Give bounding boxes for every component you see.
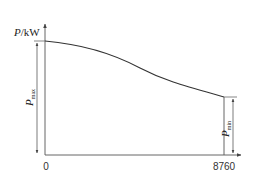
y-axis-title-unit: /kW <box>21 26 41 38</box>
pmax-label-subscript: max <box>30 89 36 99</box>
y-axis-title: P/kW <box>13 26 40 38</box>
pmax-label: Pmax <box>23 89 36 107</box>
x-tick-8760: 8760 <box>213 161 236 172</box>
x-tick-0: 0 <box>43 161 49 172</box>
pmin-label: Pmin <box>219 121 232 138</box>
pmin-label-subscript: min <box>226 121 232 130</box>
load-curve <box>45 41 224 97</box>
load-duration-chart: P/kW Pmax Pmin 0 8760 <box>0 0 259 182</box>
